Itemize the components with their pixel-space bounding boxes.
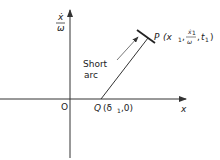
p-frac-num-sub: 1 <box>192 29 196 36</box>
p-name: P <box>154 32 160 42</box>
x-axis-label: x <box>180 104 187 114</box>
short-arc-label-line1: Short <box>83 59 108 69</box>
q-rest: ,0) <box>121 103 133 113</box>
svg-text:,: , <box>182 32 185 42</box>
point-p-label: P (x 1 , ẋ 1 ω , t 1 ) <box>154 28 214 45</box>
q-name: Q <box>94 103 101 113</box>
short-arc-label-line2: arc <box>84 70 98 80</box>
p-coords-prefix: (x <box>163 32 173 42</box>
short-arc-pointer <box>117 37 138 60</box>
y-label-numerator: ẋ <box>57 12 64 22</box>
point-q-label: Q (δ 1 ,0) <box>94 103 133 114</box>
trajectory-line <box>101 38 148 99</box>
y-label-denominator: ω <box>57 23 65 33</box>
origin-label: O <box>61 102 68 112</box>
p-close: ) <box>210 32 214 42</box>
y-axis-label: ẋ ω <box>56 12 65 33</box>
p-t-sub: 1 <box>205 36 209 43</box>
q-coords: (δ <box>103 103 113 113</box>
svg-text:,: , <box>197 32 200 42</box>
p-frac-den: ω <box>187 38 192 45</box>
phase-plane-diagram: ẋ ω x O Short arc P (x 1 , ẋ 1 ω , t 1 )… <box>0 0 220 160</box>
